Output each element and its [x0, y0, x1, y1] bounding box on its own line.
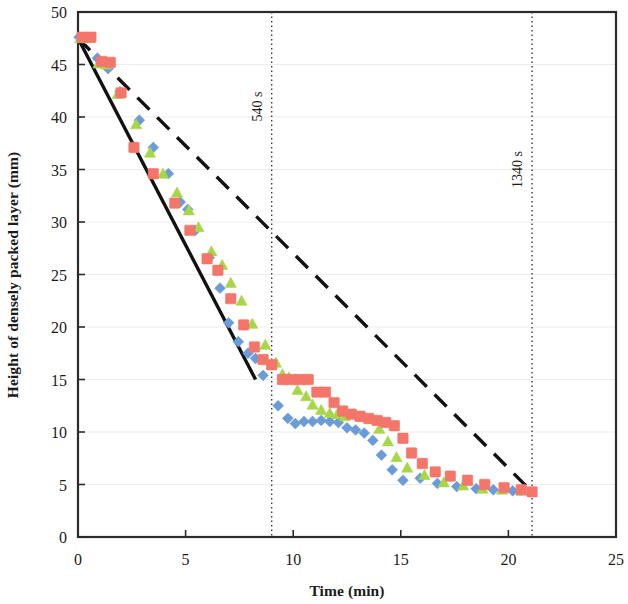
data-point: [527, 487, 537, 497]
data-point: [239, 320, 249, 330]
y-tick-label-40: 40: [51, 109, 67, 126]
data-point: [249, 342, 259, 352]
x-tick-label-5: 5: [182, 551, 190, 568]
y-tick-label-50: 50: [51, 4, 67, 21]
x-tick-label-20: 20: [500, 551, 516, 568]
data-point: [389, 421, 399, 431]
data-point: [202, 254, 212, 264]
data-point: [499, 482, 509, 492]
chart-figure: 051015202530354045500510152025 540 s1340…: [0, 0, 628, 604]
x-tick-label-15: 15: [393, 551, 409, 568]
data-point: [86, 32, 96, 42]
data-point: [129, 142, 139, 152]
y-tick-label-45: 45: [51, 57, 67, 74]
data-point: [445, 471, 455, 481]
marker-1340s-label: 1340 s: [510, 151, 525, 188]
data-point: [185, 225, 195, 235]
data-point: [516, 485, 526, 495]
data-point: [462, 475, 472, 485]
data-point: [148, 169, 158, 179]
data-point: [266, 360, 276, 370]
y-tick-label-20: 20: [51, 319, 67, 336]
x-axis-title: Time (min): [309, 582, 384, 600]
data-point: [480, 479, 490, 489]
data-point: [170, 198, 180, 208]
y-tick-label-5: 5: [59, 477, 67, 494]
y-tick-label-10: 10: [51, 424, 67, 441]
data-point: [430, 467, 440, 477]
y-tick-label-0: 0: [59, 529, 67, 546]
chart-background: [0, 0, 628, 604]
y-axis-title: Height of densely packed layer (mm): [4, 152, 22, 398]
y-tick-label-25: 25: [51, 267, 67, 284]
x-tick-label-25: 25: [608, 551, 624, 568]
data-point: [398, 433, 408, 443]
data-point: [320, 387, 330, 397]
data-point: [303, 374, 313, 384]
y-tick-label-30: 30: [51, 214, 67, 231]
data-point: [213, 265, 223, 275]
data-point: [406, 448, 416, 458]
marker-540s-label: 540 s: [250, 92, 265, 122]
data-point: [116, 88, 126, 98]
data-point: [417, 458, 427, 468]
data-point: [226, 293, 236, 303]
y-tick-label-15: 15: [51, 372, 67, 389]
x-tick-label-0: 0: [74, 551, 82, 568]
x-tick-label-10: 10: [285, 551, 301, 568]
settling-curve-chart: 051015202530354045500510152025 540 s1340…: [0, 0, 628, 604]
data-point: [105, 57, 115, 67]
y-tick-label-35: 35: [51, 162, 67, 179]
